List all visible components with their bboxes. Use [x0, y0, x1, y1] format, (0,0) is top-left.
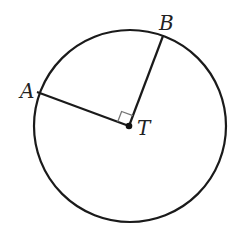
label-a: A [18, 79, 34, 103]
label-t: T [137, 116, 152, 140]
label-b: B [158, 11, 174, 35]
radius-ta [37, 92, 129, 126]
center-point-t [126, 123, 133, 130]
radius-tb [129, 36, 163, 126]
circle-diagram: A B T [0, 0, 238, 229]
